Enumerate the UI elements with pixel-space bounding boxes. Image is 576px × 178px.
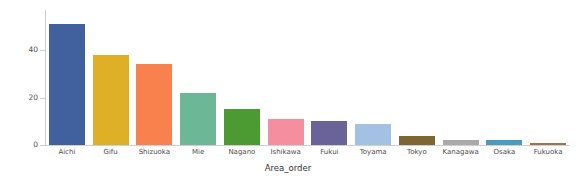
x-axis-tick-label: Toyama bbox=[351, 149, 395, 157]
x-axis-tick-label: Nagano bbox=[220, 149, 264, 157]
bar bbox=[399, 136, 435, 145]
x-axis-tick-label: Kanagawa bbox=[439, 149, 483, 157]
bar bbox=[530, 143, 566, 145]
bar bbox=[49, 24, 85, 145]
bar bbox=[443, 140, 479, 145]
y-axis-tick-label: 20 bbox=[10, 94, 38, 102]
x-axis-tick-label: Gifu bbox=[89, 149, 133, 157]
y-axis-tick-label: 40 bbox=[10, 46, 38, 54]
bar bbox=[311, 121, 347, 145]
x-axis-tick-label: Fukui bbox=[308, 149, 352, 157]
bar bbox=[268, 119, 304, 145]
x-axis-tick-label: Fukuoka bbox=[526, 149, 570, 157]
x-axis-title: Area_order bbox=[0, 163, 576, 173]
bar bbox=[136, 64, 172, 145]
x-axis-tick-label: Aichi bbox=[45, 149, 89, 157]
x-axis-tick-label: Ishikawa bbox=[264, 149, 308, 157]
x-axis-spine bbox=[45, 145, 570, 146]
bar bbox=[93, 55, 129, 145]
y-axis-tick bbox=[40, 145, 45, 146]
x-axis-tick-label: Shizuoka bbox=[133, 149, 177, 157]
y-axis-tick-label: 0 bbox=[10, 141, 38, 149]
bar bbox=[224, 109, 260, 145]
plot-area bbox=[45, 10, 570, 145]
bar-chart-figure: 02040 Count AichiGifuShizuokaMieNaganoIs… bbox=[0, 0, 576, 178]
bar bbox=[355, 124, 391, 145]
bar bbox=[180, 93, 216, 145]
y-axis-title: Count bbox=[0, 38, 1, 62]
x-axis-tick-label: Tokyo bbox=[395, 149, 439, 157]
bar bbox=[486, 140, 522, 145]
x-axis-tick-label: Osaka bbox=[483, 149, 527, 157]
x-axis-tick-label: Mie bbox=[176, 149, 220, 157]
